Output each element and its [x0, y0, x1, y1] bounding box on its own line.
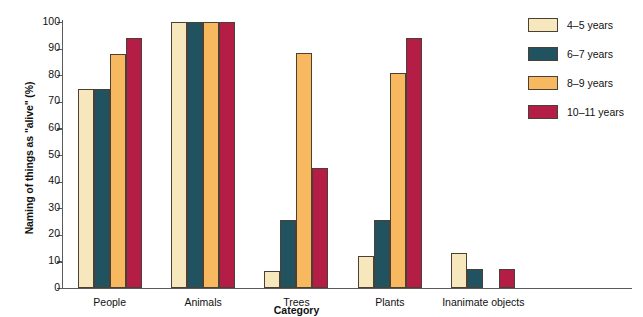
legend-swatch	[528, 47, 558, 61]
bar	[126, 38, 142, 288]
bar	[451, 253, 467, 288]
bar	[374, 220, 390, 288]
x-axis-line	[62, 288, 632, 289]
legend-label: 6–7 years	[567, 48, 613, 60]
y-tick-label: 70	[48, 94, 60, 106]
bar	[499, 269, 515, 288]
bar-chart: Naming of things as "alive" (%) 10090807…	[0, 0, 643, 317]
y-tick-label: 10	[48, 254, 60, 266]
bar-group: Trees	[250, 22, 343, 288]
bar-group: Animals	[156, 22, 249, 288]
bar	[110, 54, 126, 288]
legend-item: 4–5 years	[528, 18, 624, 32]
bar	[467, 269, 483, 288]
bar-group: People	[63, 22, 156, 288]
bar	[264, 271, 280, 288]
bar	[219, 22, 235, 288]
legend-label: 4–5 years	[567, 19, 613, 31]
legend-swatch	[528, 18, 558, 32]
bar	[390, 73, 406, 288]
legend-item: 10–11 years	[528, 105, 624, 119]
bar	[280, 220, 296, 288]
bar	[358, 256, 374, 288]
legend-item: 8–9 years	[528, 76, 624, 90]
y-tick-label: 30	[48, 201, 60, 213]
legend: 4–5 years6–7 years8–9 years10–11 years	[528, 18, 624, 119]
bar-group: Plants	[343, 22, 436, 288]
y-tick-label: 50	[48, 148, 60, 160]
y-tick-label: 80	[48, 68, 60, 80]
legend-swatch	[528, 76, 558, 90]
y-tick-label: 0	[54, 281, 60, 293]
legend-label: 10–11 years	[567, 106, 624, 118]
legend-item: 6–7 years	[528, 47, 624, 61]
bar	[171, 22, 187, 288]
plot-area: 1009080706050403020100 PeopleAnimalsTree…	[63, 22, 530, 288]
bar	[187, 22, 203, 288]
bar-group: Inanimate objects	[437, 22, 530, 288]
y-tick-label: 100	[42, 15, 60, 27]
bar	[312, 168, 328, 288]
y-tick-label: 40	[48, 174, 60, 186]
y-tick-label: 90	[48, 41, 60, 53]
y-axis-title: Naming of things as "alive" (%)	[23, 33, 35, 283]
bar	[406, 38, 422, 288]
legend-label: 8–9 years	[567, 77, 613, 89]
bar	[78, 89, 94, 289]
bar	[296, 53, 312, 288]
y-tick-label: 20	[48, 227, 60, 239]
legend-swatch	[528, 105, 558, 119]
y-tick-label: 60	[48, 121, 60, 133]
x-axis-title: Category	[63, 304, 530, 316]
bar	[94, 89, 110, 289]
bar	[203, 22, 219, 288]
